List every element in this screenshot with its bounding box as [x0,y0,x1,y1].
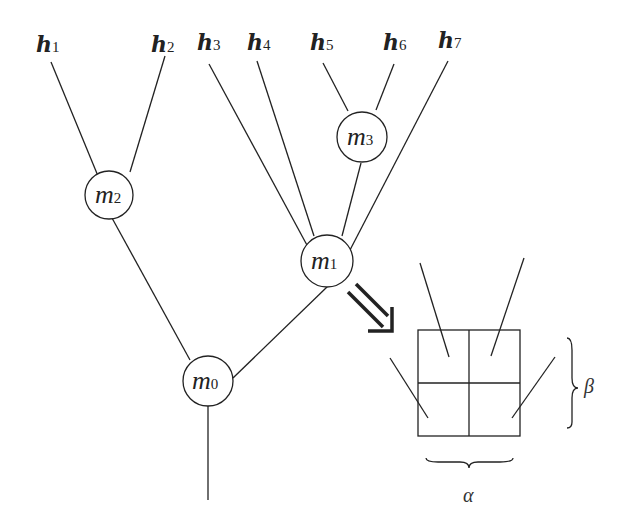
leaf-h7: h7 [438,27,462,53]
edge-h3-m1 [209,64,308,247]
edge-h1-m2 [51,62,98,176]
inset-edge-3 [390,358,428,418]
tree-diagram: h1 h2 h3 h4 h5 h6 h7 m2 m3 m1 m0 α β [0,0,631,525]
alpha-brace [426,458,513,468]
leaf-h5: h5 [310,29,334,55]
leaf-h2: h2 [151,31,175,57]
inset-edge-1 [420,263,449,357]
edge-m1-m0 [233,287,327,378]
double-arrow-icon [348,284,392,331]
beta-label: β [583,375,594,398]
leaf-h1: h1 [36,31,60,57]
inset-edge-4 [512,357,555,418]
leaf-h3: h3 [197,29,221,55]
edge-h2-m2 [130,56,165,172]
edge-m3-m1 [342,163,361,236]
leaf-h6: h6 [383,29,407,55]
edge-h5-m3 [323,63,348,111]
inset-grid [390,258,555,436]
leaf-h4: h4 [247,29,271,55]
edge-h6-m3 [376,64,394,110]
inset-edge-2 [491,258,524,356]
alpha-label: α [463,484,474,506]
edge-h4-m1 [257,61,314,236]
edge-m2-m0 [112,218,190,360]
beta-brace [567,338,578,428]
